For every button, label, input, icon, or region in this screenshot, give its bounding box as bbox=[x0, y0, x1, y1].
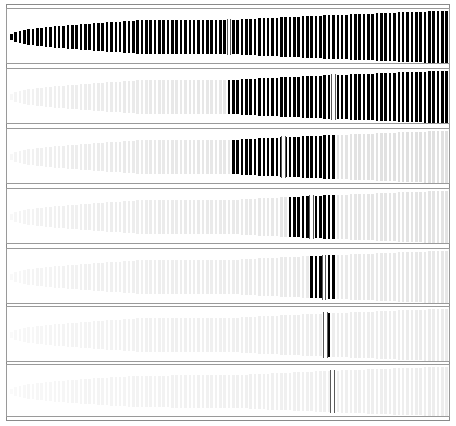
bar bbox=[184, 200, 187, 234]
bar bbox=[354, 254, 357, 300]
bar bbox=[384, 13, 387, 61]
bar bbox=[67, 85, 70, 108]
bar bbox=[263, 374, 266, 410]
bar bbox=[406, 72, 409, 122]
bar bbox=[32, 327, 35, 343]
bar bbox=[106, 262, 109, 291]
bar bbox=[358, 312, 361, 358]
bar bbox=[263, 198, 266, 236]
bar bbox=[167, 80, 170, 114]
bar bbox=[101, 143, 104, 172]
bar bbox=[202, 318, 205, 352]
bar bbox=[254, 199, 257, 236]
bar bbox=[271, 198, 274, 236]
bar bbox=[306, 372, 309, 411]
bar bbox=[36, 326, 39, 343]
bar bbox=[10, 154, 13, 160]
bar bbox=[267, 138, 270, 176]
bar bbox=[84, 264, 87, 290]
bar bbox=[389, 193, 392, 241]
bar bbox=[380, 13, 383, 61]
bar bbox=[280, 17, 283, 56]
bar bbox=[88, 144, 91, 171]
bar bbox=[23, 270, 26, 284]
bar bbox=[232, 20, 235, 54]
bar bbox=[215, 80, 218, 114]
bar bbox=[297, 315, 300, 356]
bar bbox=[415, 12, 418, 62]
bar bbox=[376, 13, 379, 60]
bar bbox=[88, 84, 91, 111]
bar bbox=[302, 16, 305, 57]
bar bbox=[40, 148, 43, 166]
bar bbox=[289, 257, 292, 297]
bar bbox=[319, 371, 322, 411]
bar bbox=[249, 199, 252, 235]
bar bbox=[149, 318, 152, 352]
bar bbox=[180, 20, 183, 54]
bar bbox=[389, 253, 392, 301]
bar bbox=[245, 259, 248, 295]
bar bbox=[236, 80, 239, 115]
bar bbox=[141, 318, 144, 352]
bar bbox=[202, 260, 205, 294]
bar bbox=[245, 199, 248, 235]
bar bbox=[276, 258, 279, 297]
bar bbox=[19, 211, 22, 223]
bar bbox=[276, 78, 279, 117]
bar bbox=[149, 140, 152, 174]
bar bbox=[411, 72, 414, 122]
bar bbox=[27, 327, 30, 342]
bar bbox=[88, 204, 91, 231]
bar bbox=[119, 202, 122, 233]
bar bbox=[136, 260, 139, 293]
bar bbox=[441, 71, 444, 123]
panel-4-threshold-marker bbox=[309, 195, 314, 239]
bar bbox=[49, 325, 52, 345]
bar bbox=[371, 14, 374, 61]
bar bbox=[23, 385, 26, 398]
bar bbox=[258, 18, 261, 55]
bar bbox=[141, 140, 144, 174]
bar bbox=[437, 11, 440, 63]
bar bbox=[175, 80, 178, 114]
bar bbox=[23, 150, 26, 164]
bar bbox=[101, 378, 104, 405]
bar bbox=[10, 214, 13, 220]
bar bbox=[145, 20, 148, 54]
bar bbox=[136, 140, 139, 173]
bar bbox=[332, 195, 335, 239]
bar bbox=[202, 20, 205, 54]
bar bbox=[354, 134, 357, 180]
bar bbox=[67, 205, 70, 228]
bar bbox=[154, 140, 157, 174]
bar bbox=[19, 386, 22, 398]
bar bbox=[223, 80, 226, 114]
bar bbox=[97, 203, 100, 231]
bar bbox=[54, 86, 57, 107]
bar bbox=[241, 139, 244, 174]
bar bbox=[19, 151, 22, 163]
bar bbox=[193, 260, 196, 294]
bar bbox=[323, 195, 326, 238]
bar bbox=[271, 316, 274, 354]
bar bbox=[363, 254, 366, 300]
bar bbox=[276, 198, 279, 237]
bar bbox=[141, 20, 144, 54]
bar bbox=[54, 381, 57, 401]
bar bbox=[228, 318, 231, 352]
bar bbox=[345, 370, 348, 412]
bar bbox=[132, 141, 135, 174]
bar bbox=[254, 79, 257, 116]
bar bbox=[228, 140, 231, 174]
bar bbox=[367, 194, 370, 241]
bar bbox=[315, 196, 318, 238]
bar bbox=[428, 131, 431, 182]
bar bbox=[75, 85, 78, 110]
bar bbox=[284, 77, 287, 117]
bar bbox=[315, 371, 318, 411]
bar bbox=[363, 134, 366, 180]
bar bbox=[158, 200, 161, 234]
bar bbox=[306, 136, 309, 178]
bar bbox=[45, 207, 48, 226]
